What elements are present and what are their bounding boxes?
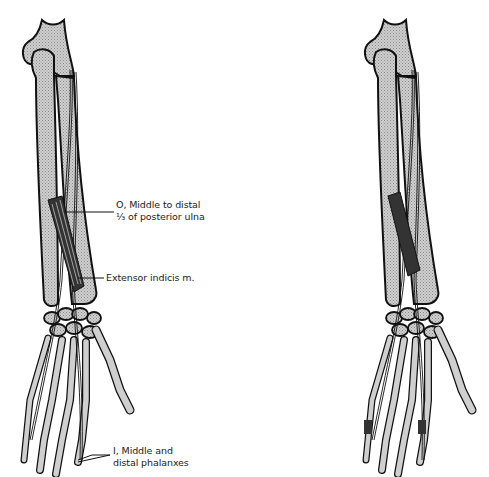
right-arm-illustration <box>364 20 472 474</box>
origin-label-line1: O, Middle to distal <box>116 199 205 211</box>
anatomy-diagram <box>0 0 489 477</box>
origin-label: O, Middle to distal ⅓ of posterior ulna <box>116 199 205 222</box>
origin-label-line2: ⅓ of posterior ulna <box>116 211 205 223</box>
left-arm-illustration <box>23 20 130 474</box>
insertion-label-line2: distal phalanxes <box>113 457 189 469</box>
muscle-label: Extensor indicis m. <box>106 272 194 284</box>
insertion-label-line1: I, Middle and <box>113 445 189 457</box>
insertion-label: I, Middle and distal phalanxes <box>113 445 189 468</box>
